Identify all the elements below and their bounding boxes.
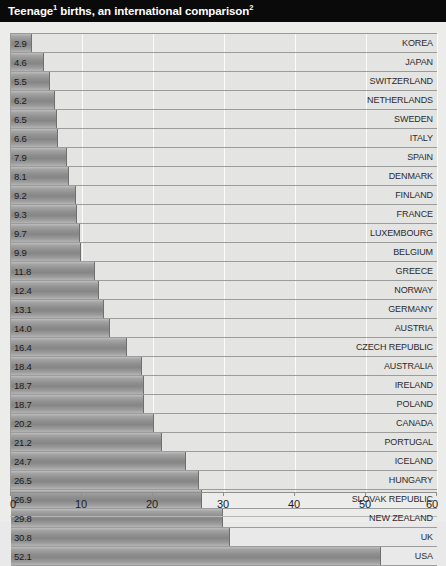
bar-row[interactable]: 11.8GREECE — [11, 262, 437, 281]
bar-value-label: 21.2 — [14, 433, 32, 451]
category-label: UK — [421, 528, 433, 546]
bar-value-label: 9.3 — [14, 205, 27, 223]
bar-row[interactable]: 5.5SWITZERLAND — [11, 72, 437, 91]
bar-row[interactable]: 9.7LUXEMBOURG — [11, 224, 437, 243]
bar-value-label: 11.8 — [14, 262, 31, 280]
bar[interactable] — [11, 433, 162, 451]
title-text-part1: Teenage — [8, 5, 53, 17]
bar-value-label: 26.5 — [14, 471, 32, 489]
bar-row[interactable]: 24.7ICELAND — [11, 452, 437, 471]
x-tick-label-30: 30 — [217, 498, 229, 510]
bar-row[interactable]: 7.9SPAIN — [11, 148, 437, 167]
bar-row[interactable]: 20.2CANADA — [11, 414, 437, 433]
category-label: NORWAY — [394, 281, 433, 299]
bar-value-label: 6.2 — [14, 91, 27, 109]
bar-value-label: 18.4 — [14, 357, 32, 375]
category-label: GREECE — [396, 262, 433, 280]
bar-row[interactable]: 18.7POLAND — [11, 395, 437, 414]
x-tick-40 — [294, 492, 295, 496]
bar-value-label: 29.8 — [14, 509, 32, 527]
title-footnote-marker-2: 2 — [249, 3, 253, 12]
bar-value-label: 52.1 — [14, 547, 32, 565]
category-label: USA — [415, 547, 433, 565]
x-tick-20 — [152, 492, 153, 496]
bar[interactable] — [11, 471, 199, 489]
bar-row[interactable]: 26.5HUNGARY — [11, 471, 437, 490]
category-label: NEW ZEALAND — [369, 509, 433, 527]
category-label: SPAIN — [407, 148, 433, 166]
category-label: LUXEMBOURG — [370, 224, 433, 242]
bar-value-label: 16.4 — [14, 338, 32, 356]
title-text-part2: births, an international comparison — [57, 5, 249, 17]
x-tick-label-10: 10 — [75, 498, 87, 510]
bar-row[interactable]: 8.1DENMARK — [11, 167, 437, 186]
x-tick-10 — [81, 492, 82, 496]
page-title: Teenage1 births, an international compar… — [0, 5, 253, 17]
x-tick-label-40: 40 — [288, 498, 300, 510]
bar-row[interactable]: 6.2NETHERLANDS — [11, 91, 437, 110]
bar-row[interactable]: 13.1GERMANY — [11, 300, 437, 319]
bar-value-label: 20.2 — [14, 414, 32, 432]
bar-row[interactable]: 52.1USA — [11, 547, 437, 566]
x-tick-30 — [223, 492, 224, 496]
gridline-60 — [437, 34, 438, 492]
bar-value-label: 9.2 — [14, 186, 27, 204]
bar-value-label: 18.7 — [14, 395, 32, 413]
bar-row[interactable]: 9.3FRANCE — [11, 205, 437, 224]
bar-row[interactable]: 9.9BELGIUM — [11, 243, 437, 262]
bar-value-label: 24.7 — [14, 452, 32, 470]
bar-row[interactable]: 12.4NORWAY — [11, 281, 437, 300]
category-label: SWEDEN — [394, 110, 433, 128]
category-label: SLOVAK REPUBLIC — [352, 490, 433, 508]
category-label: BELGIUM — [393, 243, 433, 261]
bar[interactable] — [11, 414, 154, 432]
category-label: JAPAN — [405, 53, 433, 71]
bar-row[interactable]: 30.8UK — [11, 528, 437, 547]
x-tick-60 — [436, 492, 437, 496]
bar-row[interactable]: 4.6JAPAN — [11, 53, 437, 72]
category-label: HUNGARY — [389, 471, 433, 489]
bar-row[interactable]: 6.5SWEDEN — [11, 110, 437, 129]
bar-row[interactable]: 18.7IRELAND — [11, 376, 437, 395]
category-label: POLAND — [397, 395, 433, 413]
bar[interactable] — [11, 452, 186, 470]
category-label: GERMANY — [388, 300, 433, 318]
category-label: IRELAND — [395, 376, 433, 394]
category-label: ICELAND — [395, 452, 433, 470]
bar-row[interactable]: 2.9KOREA — [11, 34, 437, 53]
x-tick-label-20: 20 — [146, 498, 158, 510]
category-label: AUSTRALIA — [384, 357, 433, 375]
category-label: DENMARK — [389, 167, 433, 185]
bar-value-label: 12.4 — [14, 281, 32, 299]
bar[interactable] — [11, 547, 381, 565]
category-label: FRANCE — [397, 205, 433, 223]
category-label: FINLAND — [395, 186, 433, 204]
bar-value-label: 26.9 — [14, 490, 32, 508]
bar[interactable] — [11, 528, 230, 546]
bar-value-label: 8.1 — [14, 167, 27, 185]
bar-row[interactable]: 14.0AUSTRIA — [11, 319, 437, 338]
category-label: CANADA — [396, 414, 433, 432]
category-label: SWITZERLAND — [370, 72, 433, 90]
bar-value-label: 5.5 — [14, 72, 27, 90]
bar-value-label: 4.6 — [14, 53, 27, 71]
bar-value-label: 7.9 — [14, 148, 27, 166]
category-label: CZECH REPUBLIC — [356, 338, 433, 356]
bar-row[interactable]: 9.2FINLAND — [11, 186, 437, 205]
bar-value-label: 13.1 — [14, 300, 32, 318]
plot-area: 2.9KOREA4.6JAPAN5.5SWITZERLAND6.2NETHERL… — [10, 33, 437, 492]
bar-row[interactable]: 6.6ITALY — [11, 129, 437, 148]
bar-row[interactable]: 16.4CZECH REPUBLIC — [11, 338, 437, 357]
category-label: ITALY — [410, 129, 433, 147]
category-label: NETHERLANDS — [367, 91, 433, 109]
chart-title-bar: Teenage1 births, an international compar… — [0, 0, 446, 22]
bar-value-label: 14.0 — [14, 319, 32, 337]
x-tick-0 — [10, 492, 11, 496]
bar-value-label: 9.9 — [14, 243, 27, 261]
bar-value-label: 6.5 — [14, 110, 27, 128]
bar-row[interactable]: 21.2PORTUGAL — [11, 433, 437, 452]
bar-row[interactable]: 18.4AUSTRALIA — [11, 357, 437, 376]
bar-value-label: 30.8 — [14, 528, 32, 546]
category-label: KOREA — [402, 34, 433, 52]
